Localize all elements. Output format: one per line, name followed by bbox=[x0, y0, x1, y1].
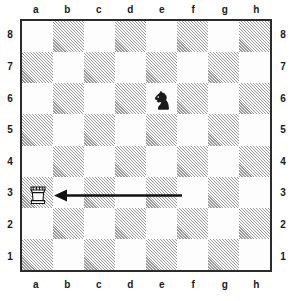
square-c3[interactable] bbox=[84, 177, 115, 208]
square-g1[interactable] bbox=[208, 239, 239, 270]
square-a1[interactable] bbox=[22, 239, 53, 270]
chessboard[interactable] bbox=[20, 19, 272, 272]
file-label-f-top: f bbox=[178, 2, 210, 18]
square-c7[interactable] bbox=[84, 52, 115, 83]
file-label-c-bottom: c bbox=[83, 277, 115, 293]
square-a6[interactable] bbox=[22, 83, 53, 114]
square-a5[interactable] bbox=[22, 114, 53, 145]
square-g4[interactable] bbox=[208, 146, 239, 177]
square-h5[interactable] bbox=[239, 114, 270, 145]
file-label-d-bottom: d bbox=[115, 277, 147, 293]
square-c5[interactable] bbox=[84, 114, 115, 145]
square-e5[interactable] bbox=[146, 114, 177, 145]
square-d7[interactable] bbox=[115, 52, 146, 83]
square-g5[interactable] bbox=[208, 114, 239, 145]
square-h2[interactable] bbox=[239, 208, 270, 239]
file-label-a-bottom: a bbox=[20, 277, 52, 293]
square-d8[interactable] bbox=[115, 21, 146, 52]
square-b7[interactable] bbox=[53, 52, 84, 83]
square-c6[interactable] bbox=[84, 83, 115, 114]
square-d3[interactable] bbox=[115, 177, 146, 208]
square-b6[interactable] bbox=[53, 83, 84, 114]
square-h8[interactable] bbox=[239, 21, 270, 52]
square-e2[interactable] bbox=[146, 208, 177, 239]
square-e3[interactable] bbox=[146, 177, 177, 208]
rank-label-3-left: 3 bbox=[1, 177, 19, 209]
file-label-g-bottom: g bbox=[209, 277, 241, 293]
square-d6[interactable] bbox=[115, 83, 146, 114]
file-label-h-top: h bbox=[241, 2, 273, 18]
black-knight-e6[interactable] bbox=[148, 84, 180, 116]
file-label-e-bottom: e bbox=[146, 277, 178, 293]
square-d1[interactable] bbox=[115, 239, 146, 270]
rank-labels-left: 8 7 6 5 4 3 2 1 bbox=[1, 19, 19, 272]
rank-label-6-right: 6 bbox=[274, 82, 292, 114]
square-d4[interactable] bbox=[115, 146, 146, 177]
square-a4[interactable] bbox=[22, 146, 53, 177]
file-label-b-bottom: b bbox=[52, 277, 84, 293]
square-b8[interactable] bbox=[53, 21, 84, 52]
square-b2[interactable] bbox=[53, 208, 84, 239]
square-c4[interactable] bbox=[84, 146, 115, 177]
square-b1[interactable] bbox=[53, 239, 84, 270]
rank-label-7-left: 7 bbox=[1, 51, 19, 83]
square-d5[interactable] bbox=[115, 114, 146, 145]
square-g3[interactable] bbox=[208, 177, 239, 208]
square-a8[interactable] bbox=[22, 21, 53, 52]
square-e8[interactable] bbox=[146, 21, 177, 52]
square-f1[interactable] bbox=[177, 239, 208, 270]
rank-label-5-left: 5 bbox=[1, 114, 19, 146]
rank-label-5-right: 5 bbox=[274, 114, 292, 146]
square-h3[interactable] bbox=[239, 177, 270, 208]
rank-label-8-right: 8 bbox=[274, 19, 292, 51]
file-label-g-top: g bbox=[209, 2, 241, 18]
file-label-b-top: b bbox=[52, 2, 84, 18]
square-c1[interactable] bbox=[84, 239, 115, 270]
squares-layer bbox=[22, 21, 270, 270]
square-h4[interactable] bbox=[239, 146, 270, 177]
square-g6[interactable] bbox=[208, 83, 239, 114]
square-f3[interactable] bbox=[177, 177, 208, 208]
file-label-f-bottom: f bbox=[178, 277, 210, 293]
square-e4[interactable] bbox=[146, 146, 177, 177]
file-label-c-top: c bbox=[83, 2, 115, 18]
square-f8[interactable] bbox=[177, 21, 208, 52]
square-c8[interactable] bbox=[84, 21, 115, 52]
rank-labels-right: 8 7 6 5 4 3 2 1 bbox=[274, 19, 292, 272]
square-f2[interactable] bbox=[177, 208, 208, 239]
file-label-a-top: a bbox=[20, 2, 52, 18]
rank-label-8-left: 8 bbox=[1, 19, 19, 51]
square-c2[interactable] bbox=[84, 208, 115, 239]
rank-label-7-right: 7 bbox=[274, 51, 292, 83]
file-label-h-bottom: h bbox=[241, 277, 273, 293]
rank-label-2-right: 2 bbox=[274, 209, 292, 241]
square-f4[interactable] bbox=[177, 146, 208, 177]
square-d2[interactable] bbox=[115, 208, 146, 239]
square-h7[interactable] bbox=[239, 52, 270, 83]
rank-label-4-right: 4 bbox=[274, 146, 292, 178]
square-h1[interactable] bbox=[239, 239, 270, 270]
white-rook-a3[interactable] bbox=[22, 179, 54, 211]
square-g7[interactable] bbox=[208, 52, 239, 83]
square-e1[interactable] bbox=[146, 239, 177, 270]
square-b4[interactable] bbox=[53, 146, 84, 177]
square-b5[interactable] bbox=[53, 114, 84, 145]
square-f5[interactable] bbox=[177, 114, 208, 145]
square-a2[interactable] bbox=[22, 208, 53, 239]
rank-label-2-left: 2 bbox=[1, 209, 19, 241]
square-f6[interactable] bbox=[177, 83, 208, 114]
square-b3[interactable] bbox=[53, 177, 84, 208]
rank-label-6-left: 6 bbox=[1, 82, 19, 114]
square-e7[interactable] bbox=[146, 52, 177, 83]
file-labels-bottom: a b c d e f g h bbox=[20, 277, 272, 293]
square-a7[interactable] bbox=[22, 52, 53, 83]
square-f7[interactable] bbox=[177, 52, 208, 83]
square-g8[interactable] bbox=[208, 21, 239, 52]
rank-label-3-right: 3 bbox=[274, 177, 292, 209]
square-h6[interactable] bbox=[239, 83, 270, 114]
file-label-d-top: d bbox=[115, 2, 147, 18]
rank-label-4-left: 4 bbox=[1, 146, 19, 178]
rank-label-1-left: 1 bbox=[1, 240, 19, 272]
square-g2[interactable] bbox=[208, 208, 239, 239]
file-label-e-top: e bbox=[146, 2, 178, 18]
